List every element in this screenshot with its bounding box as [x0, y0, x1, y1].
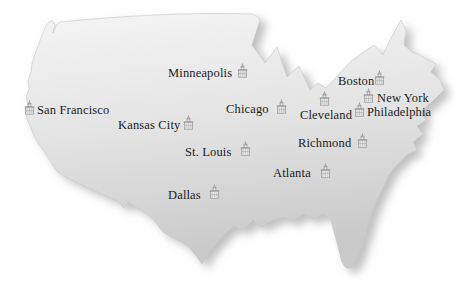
bank-building-icon [240, 141, 251, 156]
bank-building-icon [354, 102, 365, 117]
bank-building-icon [363, 88, 374, 103]
city-label-philadelphia: Philadelphia [367, 105, 431, 119]
city-label-atlanta: Atlanta [273, 166, 311, 180]
city-label-st-louis: St. Louis [185, 145, 232, 159]
city-label-cleveland: Cleveland [300, 108, 352, 122]
bank-building-icon [319, 91, 330, 106]
bank-building-icon [357, 133, 368, 148]
bank-building-icon [276, 99, 287, 114]
city-label-richmond: Richmond [298, 136, 351, 150]
bank-building-icon [374, 70, 385, 85]
city-label-minneapolis: Minneapolis [168, 66, 232, 80]
bank-building-icon [183, 115, 194, 130]
bank-building-icon [24, 100, 35, 115]
city-label-dallas: Dallas [168, 188, 201, 202]
city-layer: San FranciscoMinneapolisKansas CitySt. L… [0, 0, 455, 286]
city-label-chicago: Chicago [226, 102, 269, 116]
city-label-boston: Boston [338, 74, 374, 88]
fed-reserve-cities-map: San FranciscoMinneapolisKansas CitySt. L… [0, 0, 455, 286]
bank-building-icon [209, 184, 220, 199]
bank-building-icon [320, 163, 331, 178]
city-label-kansas-city: Kansas City [118, 118, 180, 132]
city-label-new-york: New York [377, 91, 429, 105]
city-label-san-francisco: San Francisco [37, 103, 109, 117]
bank-building-icon [237, 63, 248, 78]
